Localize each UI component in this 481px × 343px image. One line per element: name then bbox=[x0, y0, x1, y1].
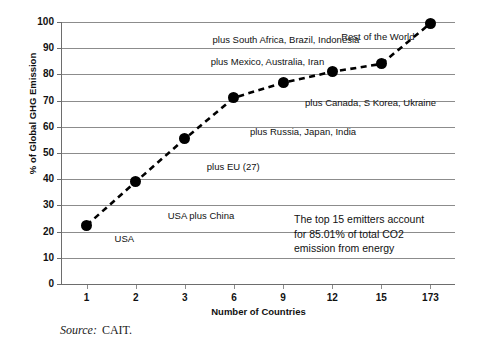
source-value: CAIT. bbox=[102, 323, 132, 337]
x-tick-mark bbox=[234, 285, 235, 289]
data-point-marker bbox=[278, 77, 289, 88]
y-tick-mark bbox=[57, 48, 61, 49]
data-annotation: Rest of the World bbox=[341, 31, 414, 43]
y-tick-label: 60 bbox=[20, 122, 54, 132]
data-point-marker bbox=[81, 220, 92, 231]
y-tick-label: 50 bbox=[20, 148, 54, 158]
source-note: Source:CAIT. bbox=[60, 323, 132, 338]
x-tick-label: 12 bbox=[312, 292, 352, 303]
y-tick-label: 30 bbox=[20, 200, 54, 210]
y-tick-mark bbox=[57, 101, 61, 102]
y-tick-mark bbox=[57, 127, 61, 128]
y-tick-label: 80 bbox=[20, 69, 54, 79]
y-tick-label: 0 bbox=[20, 279, 54, 289]
x-tick-label: 15 bbox=[361, 292, 401, 303]
x-tick-label: 9 bbox=[263, 292, 303, 303]
callout-line-3: emission from energy bbox=[294, 241, 462, 256]
chart-figure: % of Global GHG Emission 010203040506070… bbox=[0, 0, 481, 343]
y-tick-mark bbox=[57, 179, 61, 180]
y-tick-mark bbox=[57, 284, 61, 285]
x-tick-label: 2 bbox=[116, 292, 156, 303]
x-tick-label: 173 bbox=[410, 292, 450, 303]
y-tick-label: 100 bbox=[20, 17, 54, 27]
x-tick-mark bbox=[283, 285, 284, 289]
data-annotation: USA bbox=[115, 233, 135, 245]
y-tick-mark bbox=[57, 74, 61, 75]
y-tick-label: 20 bbox=[20, 227, 54, 237]
data-annotation: plus South Africa, Brazil, Indonesia bbox=[213, 34, 360, 46]
y-tick-mark bbox=[57, 232, 61, 233]
x-tick-label: 6 bbox=[214, 292, 254, 303]
gridline bbox=[62, 284, 455, 285]
data-annotation: plus Mexico, Australia, Iran bbox=[211, 56, 325, 68]
x-tick-mark bbox=[430, 285, 431, 289]
x-tick-mark bbox=[87, 285, 88, 289]
x-axis-title: Number of Countries bbox=[62, 306, 455, 317]
callout-line-2: for 85.01% of total CO2 bbox=[294, 227, 462, 242]
x-tick-mark bbox=[136, 285, 137, 289]
data-annotation: plus Canada, S Korea, Ukraine bbox=[305, 97, 436, 109]
data-annotation: plus Russia, Japan, India bbox=[250, 126, 356, 138]
callout-note: The top 15 emitters account for 85.01% o… bbox=[294, 212, 462, 256]
y-tick-label: 90 bbox=[20, 43, 54, 53]
plot-area: USAUSA plus Chinaplus EU (27)plus Russia… bbox=[62, 22, 455, 284]
y-tick-label: 10 bbox=[20, 253, 54, 263]
y-tick-mark bbox=[57, 153, 61, 154]
data-point-marker bbox=[425, 18, 436, 29]
data-annotation: USA plus China bbox=[168, 210, 235, 222]
data-point-marker bbox=[327, 66, 338, 77]
x-tick-mark bbox=[381, 285, 382, 289]
data-annotation: plus EU (27) bbox=[207, 161, 260, 173]
y-tick-mark bbox=[57, 205, 61, 206]
x-tick-label: 1 bbox=[67, 292, 107, 303]
y-axis-title: % of Global GHG Emission bbox=[27, 34, 38, 194]
callout-line-1: The top 15 emitters account bbox=[294, 212, 462, 227]
x-tick-label: 3 bbox=[165, 292, 205, 303]
x-tick-mark bbox=[185, 285, 186, 289]
y-tick-label: 40 bbox=[20, 174, 54, 184]
y-tick-mark bbox=[57, 22, 61, 23]
source-label: Source: bbox=[60, 323, 97, 337]
y-tick-label: 70 bbox=[20, 96, 54, 106]
y-tick-mark bbox=[57, 258, 61, 259]
x-tick-mark bbox=[332, 285, 333, 289]
